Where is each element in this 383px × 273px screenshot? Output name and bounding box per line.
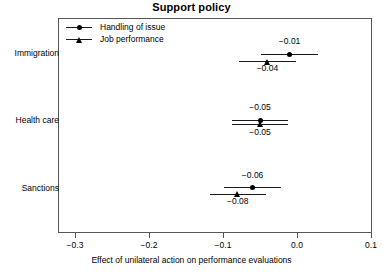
x-tick-mark	[297, 233, 298, 238]
data-point-label: −0.08	[215, 196, 261, 206]
triangle-marker-icon	[76, 37, 82, 43]
x-tick-mark	[223, 233, 224, 238]
x-tick-label: 0.0	[277, 240, 317, 250]
data-point-label: −0.04	[244, 63, 290, 73]
data-point-label: −0.06	[230, 170, 276, 180]
data-point-label: −0.01	[267, 36, 313, 46]
chart-title: Support policy	[0, 1, 383, 14]
legend-label: Job performance	[100, 34, 164, 45]
data-point-label: −0.05	[237, 127, 283, 137]
circle-marker-icon	[77, 25, 82, 30]
y-axis-label-immigration: Immigration	[0, 48, 59, 58]
x-tick-mark	[371, 233, 372, 238]
x-axis-title: Effect of unilateral action on performan…	[0, 255, 383, 265]
y-axis-label-health-care: Health care	[0, 115, 59, 125]
legend-label: Handling of issue	[100, 22, 165, 33]
x-tick-label: 0.1	[351, 240, 383, 250]
data-point-label: −0.05	[237, 102, 283, 112]
x-tick-mark	[149, 233, 150, 238]
x-tick-label: −0.1	[203, 240, 243, 250]
x-tick-label: −0.2	[129, 240, 169, 250]
chart-figure: Support policy Immigration Health care S…	[0, 0, 383, 273]
data-point-circle	[287, 52, 292, 57]
y-axis-label-sanctions: Sanctions	[0, 183, 59, 193]
x-tick-label: −0.3	[55, 240, 95, 250]
x-tick-mark	[75, 233, 76, 238]
